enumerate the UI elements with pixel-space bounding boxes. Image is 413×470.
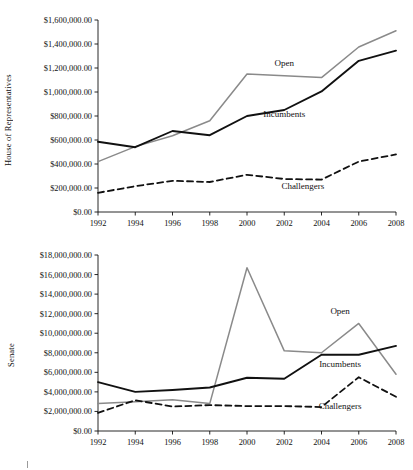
x-tick-label: 2000 bbox=[239, 219, 256, 228]
senate-plot-area: $0.00$2,000,000.00$4,000,000.00$6,000,00… bbox=[0, 235, 413, 470]
series-annotation-open: Open bbox=[330, 306, 350, 316]
x-tick-label: 2006 bbox=[350, 219, 367, 228]
y-tick-label: $1,200,000.00 bbox=[44, 64, 92, 73]
y-tick-label: $12,000,000.00 bbox=[40, 310, 92, 319]
y-tick-label: $1,600,000.00 bbox=[44, 16, 92, 25]
y-tick-label: $400,000.00 bbox=[50, 160, 92, 169]
two-panel-line-chart-figure: House of Representatives $0.00$200,000.0… bbox=[0, 0, 413, 470]
y-tick-label: $800,000.00 bbox=[50, 112, 92, 121]
y-tick-label: $2,000,000.00 bbox=[44, 407, 92, 416]
x-tick-label: 1996 bbox=[164, 219, 181, 228]
x-tick-label: 1994 bbox=[127, 438, 145, 447]
series-annotation-challengers: Challengers bbox=[319, 401, 362, 411]
y-tick-label: $18,000,000.00 bbox=[40, 251, 92, 260]
x-tick-label: 2000 bbox=[239, 438, 256, 447]
y-tick-label: $200,000.00 bbox=[50, 184, 92, 193]
x-tick-label: 1992 bbox=[90, 219, 107, 228]
x-tick-label: 2008 bbox=[388, 438, 405, 447]
house-plot-area: $0.00$200,000.00$400,000.00$600,000.00$8… bbox=[0, 0, 413, 240]
y-tick-label: $6,000,000.00 bbox=[44, 368, 92, 377]
series-line-challengers bbox=[98, 154, 396, 192]
series-line-open bbox=[98, 31, 396, 162]
series-annotation-incumbents: Incumbents bbox=[263, 109, 305, 119]
series-annotation-challengers: Challengers bbox=[281, 181, 324, 191]
y-tick-label: $600,000.00 bbox=[50, 136, 92, 145]
y-tick-label: $16,000,000.00 bbox=[40, 271, 92, 280]
senate-y-axis-title: Senate bbox=[6, 300, 16, 410]
y-tick-label: $1,000,000.00 bbox=[44, 88, 92, 97]
y-tick-label: $0.00 bbox=[73, 427, 92, 436]
x-tick-label: 2002 bbox=[276, 438, 293, 447]
x-tick-label: 1996 bbox=[164, 438, 181, 447]
x-tick-label: 2004 bbox=[313, 219, 331, 228]
series-line-incumbents bbox=[98, 51, 396, 148]
page-foot-mark bbox=[27, 461, 28, 468]
x-tick-label: 2002 bbox=[276, 219, 293, 228]
x-tick-label: 1998 bbox=[201, 219, 218, 228]
x-tick-label: 2006 bbox=[350, 438, 367, 447]
y-tick-label: $10,000,000.00 bbox=[40, 329, 92, 338]
y-tick-label: $14,000,000.00 bbox=[40, 290, 92, 299]
x-tick-label: 1992 bbox=[90, 438, 107, 447]
x-tick-label: 2008 bbox=[388, 219, 405, 228]
y-tick-label: $0.00 bbox=[73, 208, 92, 217]
series-annotation-open: Open bbox=[275, 58, 295, 68]
y-tick-label: $4,000,000.00 bbox=[44, 388, 92, 397]
y-tick-label: $8,000,000.00 bbox=[44, 349, 92, 358]
chart-panel-senate: $0.00$2,000,000.00$4,000,000.00$6,000,00… bbox=[0, 235, 413, 470]
x-tick-label: 2004 bbox=[313, 438, 331, 447]
series-annotation-incumbents: Incumbents bbox=[319, 359, 361, 369]
chart-panel-house: House of Representatives $0.00$200,000.0… bbox=[0, 0, 413, 240]
x-tick-label: 1994 bbox=[127, 219, 145, 228]
y-tick-label: $1,400,000.00 bbox=[44, 40, 92, 49]
x-tick-label: 1998 bbox=[201, 438, 218, 447]
